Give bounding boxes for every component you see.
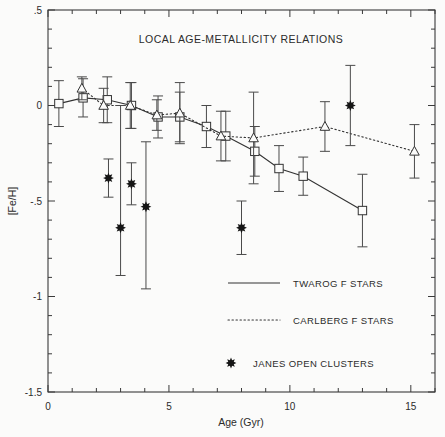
data-point-square [358, 206, 366, 214]
data-point-asterisk [126, 178, 137, 189]
y-tick-label: .5 [34, 5, 43, 16]
data-point-square [251, 147, 259, 155]
data-point-asterisk [345, 100, 356, 111]
x-tick-label: 5 [166, 401, 172, 412]
age-metallicity-plot: 051015 .50-.5-1-1.5 LOCAL AGE-METALLICIT… [0, 0, 445, 437]
data-point-asterisk [103, 173, 114, 184]
legend-label-janes: JANES OPEN CLUSTERS [253, 358, 374, 369]
x-tick-label: 10 [284, 401, 296, 412]
data-point-asterisk [236, 222, 247, 233]
plot-background [0, 0, 445, 437]
x-tick-label: 0 [45, 401, 51, 412]
legend-label-twarog: TWAROG F STARS [293, 278, 383, 289]
data-point-asterisk [141, 201, 152, 212]
y-tick-label: -1.5 [25, 387, 43, 398]
figure-canvas: 051015 .50-.5-1-1.5 LOCAL AGE-METALLICIT… [0, 0, 445, 437]
y-tick-label: -.5 [30, 196, 42, 207]
legend-asterisk-glyph [226, 358, 237, 369]
data-point-square [299, 172, 307, 180]
data-point-square [55, 99, 63, 107]
x-axis-title: Age (Gyr) [218, 416, 264, 428]
x-tick-label: 15 [405, 401, 417, 412]
y-tick-label: -1 [33, 291, 42, 302]
legend-label-carlberg: CARLBERG F STARS [293, 315, 394, 326]
y-axis-title: [Fe/H] [6, 187, 18, 216]
y-tick-label: 0 [36, 100, 42, 111]
data-point-square [79, 94, 87, 102]
legend-asterisk-marker [226, 358, 237, 369]
data-point-asterisk [115, 222, 126, 233]
chart-title: LOCAL AGE-METALLICITY RELATIONS [139, 33, 343, 45]
data-point-square [275, 164, 283, 172]
